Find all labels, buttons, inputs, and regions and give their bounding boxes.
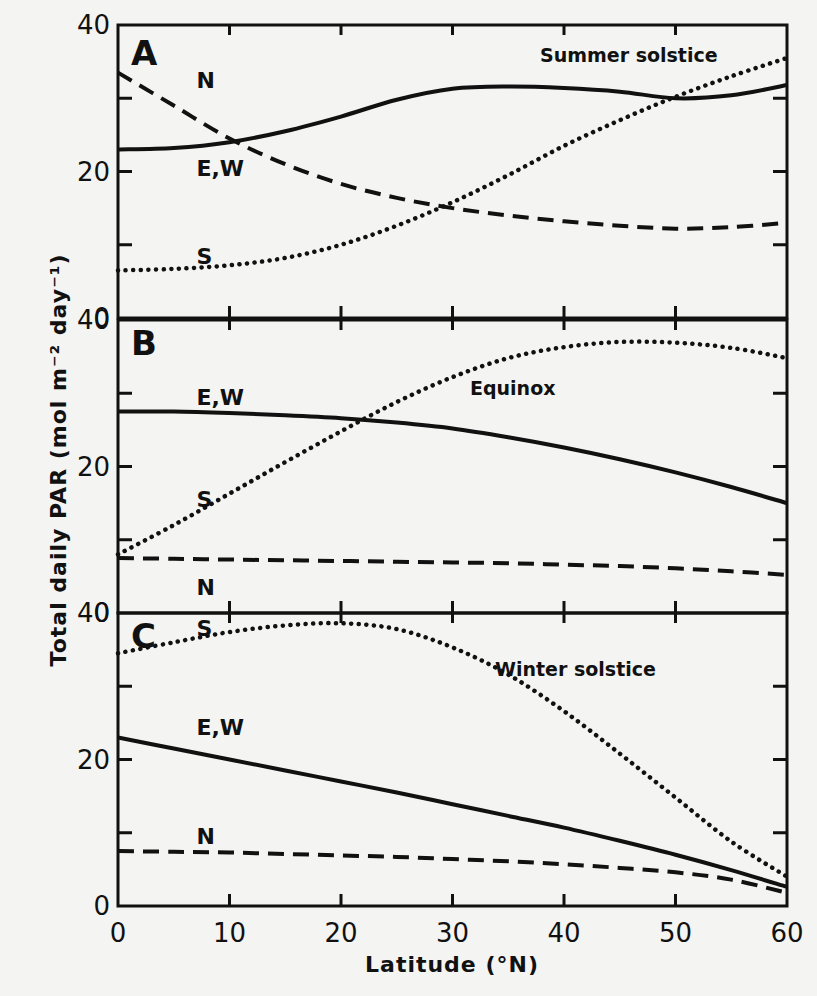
y-tick-label: 40	[77, 305, 110, 335]
curve-label-n: N	[196, 824, 214, 849]
season-label: Summer solstice	[540, 44, 718, 66]
y-tick-label: 20	[77, 157, 110, 187]
curve-label-s: S	[196, 616, 212, 641]
curve-label-ew: E,W	[196, 385, 244, 410]
curve-n	[118, 73, 787, 229]
x-tick-label: 40	[547, 918, 580, 948]
y-tick-label: 40	[77, 598, 110, 628]
plot-frame	[118, 613, 787, 906]
y-tick-label: 40	[77, 10, 110, 40]
plot-frame	[118, 320, 787, 613]
curve-s	[118, 342, 787, 555]
panel-c: 02040E,WNSCWinter solstice	[77, 598, 787, 921]
season-label: Winter solstice	[495, 658, 656, 680]
y-tick-label: 20	[77, 745, 110, 775]
curve-ew	[118, 738, 787, 887]
figure: 02040E,WNSASummer solstice02040E,WNSBEqu…	[0, 0, 817, 996]
curve-ew	[118, 411, 787, 503]
x-tick-label: 20	[324, 918, 357, 948]
panel-b: 02040E,WNSBEquinox	[77, 305, 787, 628]
curve-n	[118, 558, 787, 575]
x-tick-label: 60	[770, 918, 803, 948]
panels-group: 02040E,WNSASummer solstice02040E,WNSBEqu…	[77, 10, 804, 948]
panel-a: 02040E,WNSASummer solstice	[77, 10, 787, 333]
x-tick-label: 0	[110, 918, 127, 948]
y-tick-label: 20	[77, 452, 110, 482]
x-tick-label: 10	[213, 918, 246, 948]
x-axis-title: Latitude (°N)	[365, 952, 539, 977]
panel-letter: C	[131, 616, 156, 656]
panel-letter: A	[131, 33, 158, 73]
curve-label-n: N	[196, 575, 214, 600]
curve-label-n: N	[196, 68, 214, 93]
curve-label-ew: E,W	[196, 715, 244, 740]
curve-ew	[118, 85, 787, 149]
season-label: Equinox	[470, 377, 555, 399]
y-axis-title: Total daily PAR (mol m⁻² day⁻¹)	[46, 254, 71, 667]
y-tick-label: 0	[93, 891, 110, 921]
curve-s	[118, 623, 787, 877]
curve-label-ew: E,W	[196, 156, 244, 181]
curve-label-s: S	[196, 244, 212, 269]
curve-label-s: S	[196, 487, 212, 512]
panel-letter: B	[131, 323, 157, 363]
x-tick-label: 50	[659, 918, 692, 948]
x-tick-label: 30	[436, 918, 469, 948]
